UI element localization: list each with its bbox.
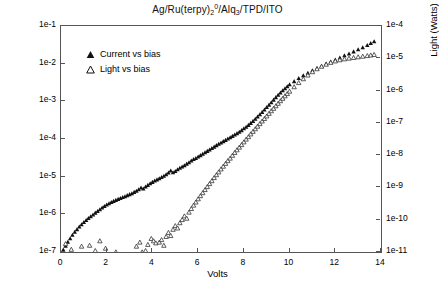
- y-tick-left: [61, 138, 65, 139]
- x-tick: [197, 248, 198, 252]
- data-point: [159, 238, 163, 242]
- chart-title: Ag/Ru(terpy)20/Alq3/TPD/ITO: [0, 3, 435, 16]
- y-tick-right: [376, 90, 380, 91]
- x-tick: [380, 248, 381, 252]
- y-tick-left: [61, 251, 65, 252]
- data-point: [287, 82, 291, 86]
- data-point: [79, 244, 83, 248]
- title-part-3: /TPD/ITO: [240, 4, 283, 15]
- y-tick-label-right: 1e-8: [386, 148, 420, 158]
- y-tick-right: [376, 25, 380, 26]
- y-tick-label-right: 1e-7: [386, 116, 420, 126]
- legend: Current vs bias Light vs bias: [86, 47, 161, 77]
- y-tick-label-right: 1e-4: [386, 19, 420, 29]
- x-tick: [243, 248, 244, 252]
- data-point: [324, 62, 328, 66]
- y-axis-right-title: Light (Watts): [428, 0, 439, 90]
- data-point: [297, 81, 301, 85]
- title-part-2: /Alq: [218, 4, 236, 15]
- data-point: [319, 64, 323, 68]
- legend-label-current: Current vs bias: [100, 47, 161, 62]
- data-point: [292, 79, 296, 83]
- data-point: [93, 248, 97, 252]
- data-point: [292, 85, 296, 89]
- y-tick-label-right: 1e-10: [386, 213, 420, 223]
- x-tick-label: 10: [277, 257, 301, 267]
- legend-item-current: Current vs bias: [86, 47, 161, 62]
- y-tick-label-left: 1e-2: [22, 57, 56, 67]
- legend-label-light: Light vs bias: [100, 62, 150, 77]
- data-point: [372, 39, 376, 43]
- y-tick-label-right: 1e-11: [386, 245, 420, 255]
- data-point: [297, 76, 301, 80]
- data-point: [68, 236, 72, 240]
- legend-item-light: Light vs bias: [86, 62, 161, 77]
- x-tick-label: 0: [48, 257, 72, 267]
- triangle-open-icon: [86, 65, 95, 74]
- data-point: [143, 248, 147, 252]
- data-point: [98, 239, 102, 243]
- y-tick-label-left: 1e-5: [22, 170, 56, 180]
- x-tick-label: 6: [185, 257, 209, 267]
- data-point: [342, 57, 346, 61]
- y-tick-right: [376, 219, 380, 220]
- y-tick-label-left: 1e-7: [22, 245, 56, 255]
- x-tick: [151, 248, 152, 252]
- data-point: [138, 240, 142, 244]
- data-point: [361, 54, 365, 58]
- x-tick: [106, 248, 107, 252]
- data-point: [356, 47, 360, 51]
- x-tick: [289, 248, 290, 252]
- y-tick-right: [376, 186, 380, 187]
- series-light: [63, 52, 376, 252]
- data-point: [166, 230, 170, 234]
- data-point: [310, 70, 314, 74]
- data-point: [287, 89, 291, 93]
- y-tick-label-left: 1e-3: [22, 94, 56, 104]
- y-tick-left: [61, 100, 65, 101]
- data-point: [164, 234, 168, 238]
- data-point: [315, 67, 319, 71]
- data-point: [347, 56, 351, 60]
- data-point: [351, 55, 355, 59]
- y-tick-label-left: 1e-6: [22, 207, 56, 217]
- x-axis-title: Volts: [0, 268, 435, 279]
- x-tick-label: 14: [368, 257, 392, 267]
- x-tick-label: 4: [139, 257, 163, 267]
- data-point: [356, 55, 360, 59]
- title-subscript-1: 2: [210, 9, 214, 16]
- x-tick: [334, 248, 335, 252]
- x-tick-label: 8: [231, 257, 255, 267]
- y-tick-right: [376, 154, 380, 155]
- y-tick-label-right: 1e-6: [386, 84, 420, 94]
- data-point: [372, 52, 376, 56]
- data-point: [347, 51, 351, 55]
- data-point: [114, 250, 118, 252]
- y-tick-left: [61, 176, 65, 177]
- y-tick-left: [61, 63, 65, 64]
- data-point: [351, 49, 355, 53]
- data-point: [69, 247, 73, 251]
- title-part-1: Ag/Ru(terpy): [152, 4, 210, 15]
- y-tick-left: [61, 213, 65, 214]
- data-point: [146, 242, 150, 246]
- x-tick: [60, 248, 61, 252]
- data-point: [134, 244, 138, 248]
- y-tick-right: [376, 57, 380, 58]
- data-point: [333, 59, 337, 63]
- x-tick-label: 12: [322, 257, 346, 267]
- y-tick-label-left: 1e-4: [22, 132, 56, 142]
- data-point: [162, 243, 166, 247]
- data-point: [329, 60, 333, 64]
- y-tick-right: [376, 122, 380, 123]
- y-tick-label-left: 1e-1: [22, 19, 56, 29]
- triangle-filled-icon: [86, 50, 95, 59]
- x-tick-label: 2: [94, 257, 118, 267]
- y-tick-left: [61, 25, 65, 26]
- data-point: [87, 243, 91, 247]
- y-tick-label-right: 1e-5: [386, 51, 420, 61]
- data-point: [361, 45, 365, 49]
- data-point: [301, 77, 305, 81]
- y-tick-label-right: 1e-9: [386, 180, 420, 190]
